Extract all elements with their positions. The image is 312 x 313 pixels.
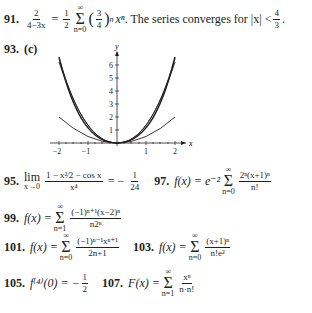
- problem-95-97: 95. limx→0 1 − x²⁄2 − cos xx⁴ = − 124 97…: [4, 166, 273, 196]
- svg-text:6: 6: [109, 61, 113, 70]
- graph: x y −2 −1 1 2 1 2 3 4 5 6: [0, 0, 312, 160]
- y-axis-label: y: [114, 42, 119, 51]
- svg-text:5: 5: [109, 74, 113, 83]
- problem-99: 99. f(x) = ∞Σn=1 (−1)ⁿ⁺¹(x−2)ⁿn2ⁿ: [4, 203, 123, 233]
- svg-text:2: 2: [109, 113, 113, 122]
- svg-text:4: 4: [109, 87, 113, 96]
- svg-text:2: 2: [173, 147, 177, 156]
- svg-text:−1: −1: [82, 147, 91, 156]
- svg-text:3: 3: [109, 100, 113, 109]
- svg-text:1: 1: [144, 147, 148, 156]
- x-axis-label: x: [188, 139, 193, 148]
- problem-105-107: 105. f⁽⁴⁾(0) = − 12 107. F(x) = ∞Σn=1 xⁿ…: [4, 268, 197, 298]
- svg-text:1: 1: [109, 126, 113, 135]
- svg-text:−2: −2: [53, 147, 62, 156]
- problem-101-103: 101. f(x) = ∞Σn=0 (−1)ⁿ⁻¹xⁿ⁺¹2n+1 103. f…: [4, 232, 232, 262]
